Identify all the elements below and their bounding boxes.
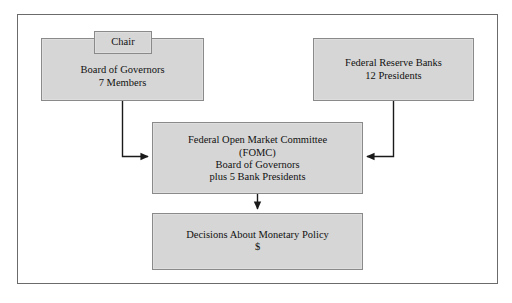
decisions-line-2: $ [255,241,260,253]
fomc-line-1: Federal Open Market Committee [188,134,327,146]
board-of-governors-line-2: 7 Members [99,77,147,89]
fomc-line-3: Board of Governors [216,159,300,171]
fomc-box[interactable]: Federal Open Market Committee (FOMC) Boa… [152,122,363,194]
fomc-line-2: (FOMC) [239,147,276,159]
board-of-governors-line-1: Board of Governors [81,64,165,76]
chair-box[interactable]: Chair [94,31,152,54]
chair-label: Chair [111,36,134,48]
federal-reserve-banks-box[interactable]: Federal Reserve Banks 12 Presidents [313,38,474,101]
decisions-line-1: Decisions About Monetary Policy [186,229,329,241]
federal-reserve-banks-line-1: Federal Reserve Banks [345,57,442,69]
decisions-box[interactable]: Decisions About Monetary Policy $ [152,213,363,270]
federal-reserve-banks-line-2: 12 Presidents [365,70,421,82]
fomc-line-4: plus 5 Bank Presidents [210,171,306,183]
diagram-canvas: Board of Governors 7 Members Chair Feder… [0,0,512,303]
